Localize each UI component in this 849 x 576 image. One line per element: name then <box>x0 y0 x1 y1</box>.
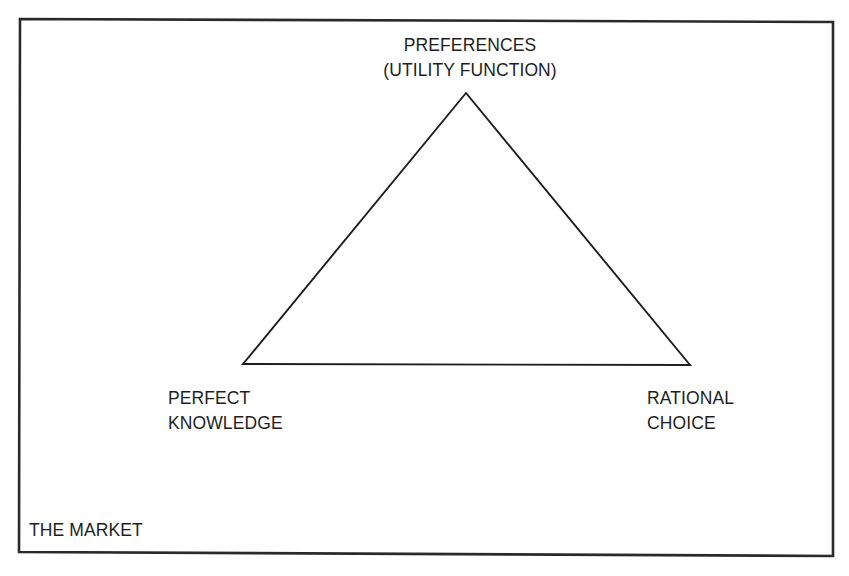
market-frame-border <box>19 19 833 556</box>
vertex-label-perfect-knowledge: PERFECT KNOWLEDGE <box>168 386 283 436</box>
rational-label: RATIONAL <box>647 386 734 411</box>
perfect-label: PERFECT <box>168 386 283 411</box>
knowledge-label: KNOWLEDGE <box>168 411 283 436</box>
diagram-graphics <box>0 0 849 576</box>
vertex-label-rational-choice: RATIONAL CHOICE <box>647 386 734 436</box>
preferences-label: PREFERENCES <box>340 33 600 58</box>
market-frame-label: THE MARKET <box>29 518 143 543</box>
choice-label: CHOICE <box>647 411 734 436</box>
utility-function-label: (UTILITY FUNCTION) <box>340 58 600 83</box>
vertex-label-preferences: PREFERENCES (UTILITY FUNCTION) <box>340 33 600 83</box>
concept-triangle <box>243 93 690 365</box>
diagram-canvas: PREFERENCES (UTILITY FUNCTION) PERFECT K… <box>0 0 849 576</box>
